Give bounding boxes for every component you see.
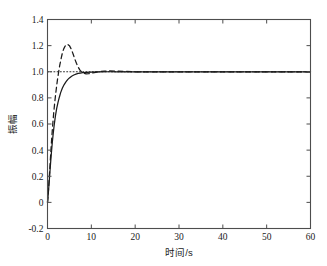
x-tick-label: 10	[87, 232, 97, 242]
y-tick-label: -0.2	[28, 224, 43, 234]
x-tick-label: 60	[306, 232, 316, 242]
y-tick-label: 1.2	[32, 41, 44, 51]
plot-background	[0, 0, 327, 266]
y-tick-label: 1.4	[32, 15, 44, 25]
step-response-plot: 0102030405060-0.200.20.40.60.81.01.21.4 …	[0, 0, 327, 266]
y-axis-title: 振幅	[7, 114, 18, 134]
x-tick-label: 0	[45, 232, 50, 242]
y-tick-label: 1.0	[32, 67, 44, 77]
y-tick-label: 0.4	[32, 146, 44, 156]
x-tick-label: 20	[130, 232, 140, 242]
x-axis-title: 时间/s	[165, 247, 193, 258]
x-tick-label: 30	[174, 232, 184, 242]
y-tick-label: 0	[39, 198, 44, 208]
x-tick-label: 50	[262, 232, 272, 242]
y-tick-label: 0.8	[32, 93, 44, 103]
x-tick-label: 40	[218, 232, 228, 242]
y-tick-label: 0.6	[32, 119, 44, 129]
y-tick-label: 0.2	[32, 172, 44, 182]
chart-figure: 0102030405060-0.200.20.40.60.81.01.21.4 …	[0, 0, 327, 266]
